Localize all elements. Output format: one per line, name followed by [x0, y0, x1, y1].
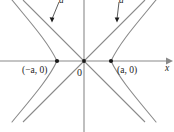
origin-point [82, 59, 86, 63]
origin-label: 0 [77, 68, 82, 78]
hyperbola-figure: (−a, 0) (a, 0) 0 x a a [0, 0, 174, 132]
annotation-leader-left [50, 2, 59, 23]
leader-arrowhead-right [115, 17, 120, 22]
leader-arrowhead-left [50, 17, 55, 22]
leader-line-left [52, 2, 59, 19]
x-axis-label: x [165, 64, 169, 74]
annotation-label-left: a [59, 0, 64, 6]
vertex-label-right: (a, 0) [117, 66, 137, 76]
vertex-label-left: (−a, 0) [22, 66, 47, 76]
vertex-point-left [55, 59, 59, 63]
vertex-point-right [109, 59, 113, 63]
annotation-label-right: a [119, 0, 124, 6]
